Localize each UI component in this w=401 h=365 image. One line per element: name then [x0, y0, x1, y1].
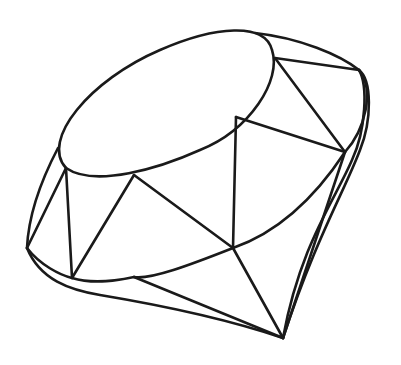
facet-line [236, 117, 345, 152]
girdle-upper-right-arc [255, 33, 359, 70]
girdle-left-outer [27, 248, 283, 338]
table-facet [59, 30, 274, 176]
facet-line [72, 175, 134, 278]
diamond-drawing [0, 0, 401, 365]
facet-line [66, 168, 72, 278]
facet-line [275, 58, 345, 152]
facet-line [134, 175, 233, 248]
facet-line [275, 58, 359, 70]
girdle-top-arc [27, 148, 58, 248]
pavilion-line [283, 152, 345, 338]
facet-line [233, 117, 236, 248]
girdle-right-inner [134, 70, 367, 277]
pavilion-line [134, 277, 283, 338]
diamond-icon [0, 0, 401, 365]
